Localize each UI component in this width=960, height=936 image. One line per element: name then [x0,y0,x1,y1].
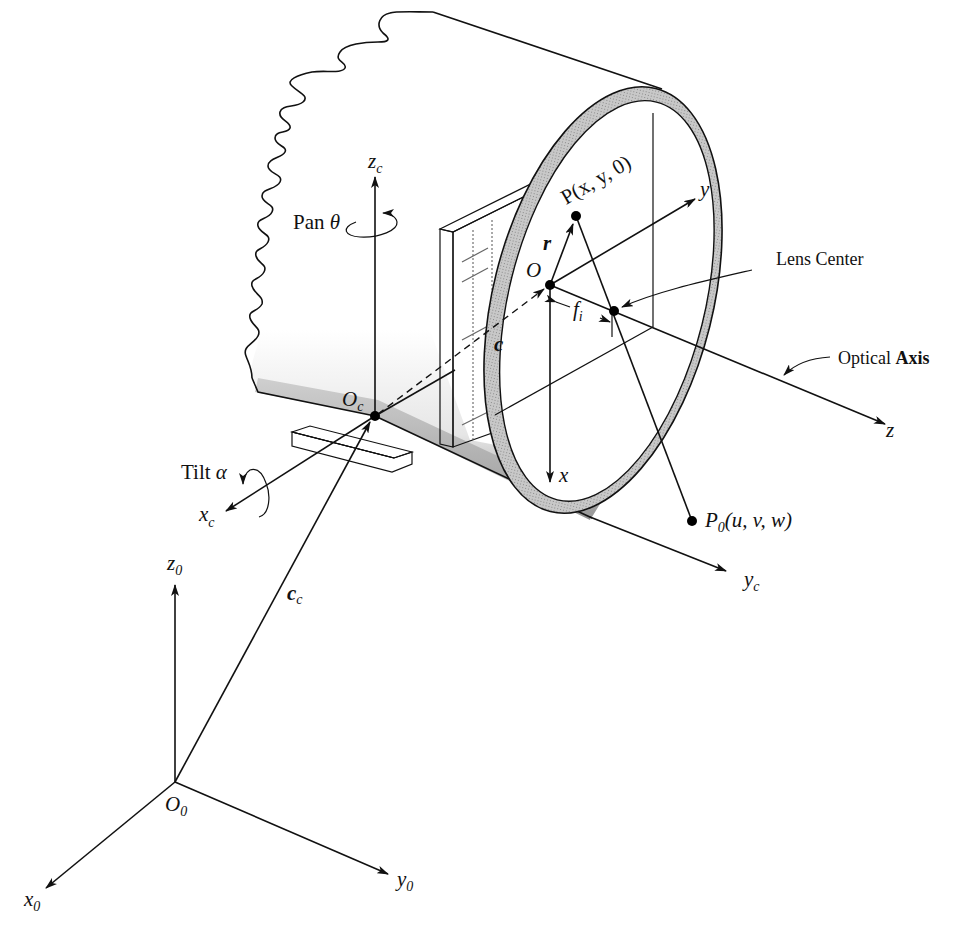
camera-body-wavy-edge [245,12,433,378]
label-c: c [494,332,504,356]
label-z0: z0 [166,551,182,578]
label-zc: zc [367,149,383,176]
label-y0: y0 [395,867,413,894]
point-Oc [370,411,380,421]
label-z-axis: z [885,418,894,442]
label-x-axis: x [558,463,569,487]
label-optical-axis: Optical Axis [838,348,930,368]
camera-geometry-diagram: zc Pan θ P(x, y, 0) y r O Lens Center fi… [0,0,960,936]
labels: zc Pan θ P(x, y, 0) y r O Lens Center fi… [23,149,930,914]
x0-axis [46,782,175,888]
pan-rotation-arrow [346,213,397,237]
label-x0: x0 [23,887,40,914]
optical-geometry [46,177,885,888]
label-xc: xc [198,502,215,530]
label-yc: yc [742,567,760,594]
label-O: O [526,258,541,282]
point-O [545,280,555,290]
point-P0 [687,516,697,526]
label-pan: Pan θ [293,210,340,234]
xc-axis [226,416,375,511]
point-P [571,211,581,221]
label-r: r [543,231,552,255]
label-O0: O0 [165,792,187,819]
label-tilt: Tilt α [181,460,228,484]
label-lens-center: Lens Center [776,249,863,269]
point-lens-center [609,306,619,316]
y0-axis [175,782,388,874]
label-y-axis: y [698,177,710,201]
label-cc: cc [287,581,303,607]
tilt-rotation-arrow [243,470,269,517]
camera-mount-plate [292,426,412,472]
label-P0: P0(u, v, w) [704,508,792,535]
